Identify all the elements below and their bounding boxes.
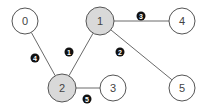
edge-label: 3	[139, 13, 143, 20]
edge-label: 5	[85, 96, 89, 103]
edge-label: 2	[118, 49, 122, 56]
node-label: 0	[22, 15, 28, 27]
edge-label-badge: 4	[31, 54, 40, 63]
node-label: 1	[97, 15, 103, 27]
node-0: 0	[12, 8, 38, 34]
edge-label-badge: 1	[65, 48, 74, 57]
node-1: 1	[86, 7, 114, 35]
node-4: 4	[169, 8, 195, 34]
edge-label: 1	[67, 49, 71, 56]
edge-label-badge: 3	[137, 12, 146, 21]
node-2: 2	[48, 74, 76, 102]
node-3: 3	[100, 75, 126, 101]
node-label: 3	[110, 82, 116, 94]
node-5: 5	[169, 75, 195, 101]
node-label: 2	[59, 82, 65, 94]
node-label: 4	[179, 15, 185, 27]
edge-label-badge: 2	[116, 48, 125, 57]
node-label: 5	[179, 82, 185, 94]
graph-diagram: 014235 12345	[0, 0, 204, 110]
edge-label-badge: 5	[83, 95, 92, 104]
edge-label: 4	[33, 55, 37, 62]
